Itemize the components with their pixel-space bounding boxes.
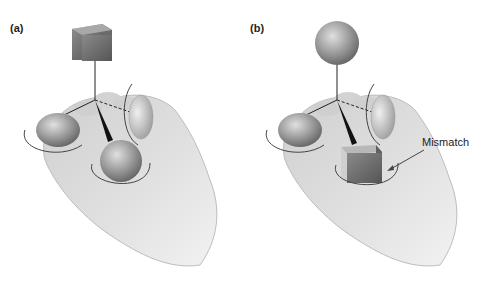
panel-b: (b) Mismatch [240, 0, 480, 283]
sphere-icon [315, 21, 359, 65]
hand-diagram-a [0, 0, 240, 283]
lens-icon [371, 95, 395, 139]
cube-icon [341, 145, 382, 183]
ellipsoid-icon [36, 113, 80, 147]
ellipsoid-icon [278, 113, 322, 147]
lens-icon [129, 95, 153, 139]
panel-a: (a) [0, 0, 240, 283]
mismatch-label: Mismatch [422, 136, 469, 148]
sphere-icon [100, 140, 142, 182]
cube-icon [72, 24, 112, 61]
